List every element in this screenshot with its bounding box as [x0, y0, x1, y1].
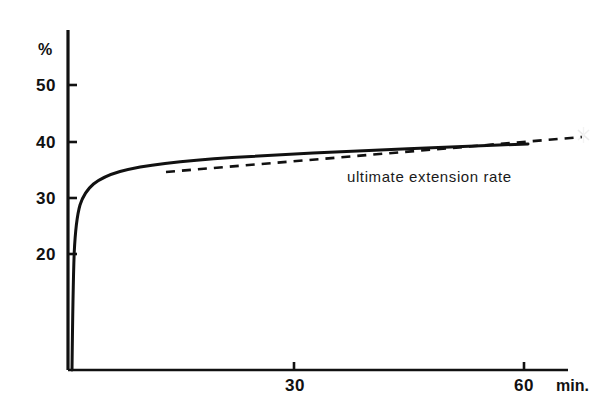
y-tick-label-20: 20 [36, 245, 56, 265]
x-tick-label-30: 30 [285, 376, 305, 396]
ultimate-extension-rate-line [166, 137, 582, 172]
y-tick-label-40: 40 [36, 133, 56, 153]
x-axis-unit-label: min. [556, 377, 589, 395]
chart-plot-area [0, 0, 614, 413]
y-axis-unit-label: % [38, 41, 52, 59]
plate-artifact-mark [578, 127, 589, 143]
y-tick-label-30: 30 [36, 189, 56, 209]
x-tick-label-60: 60 [514, 376, 534, 396]
ultimate-extension-rate-annotation: ultimate extension rate [347, 168, 512, 185]
y-tick-label-50: 50 [36, 76, 56, 96]
chart-figure: % 50 40 30 20 30 60 min. ultimate extens… [0, 0, 614, 413]
